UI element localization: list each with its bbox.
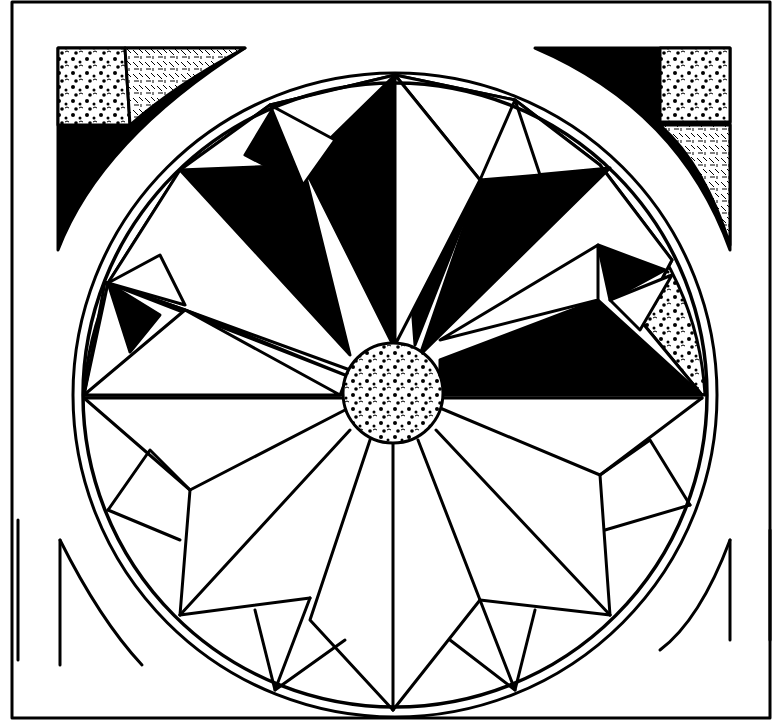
- corner-tr-speckle: [660, 48, 730, 122]
- rose-window-artwork: [0, 0, 773, 722]
- center-hub: [343, 343, 443, 443]
- corner-tl-speckle: [58, 48, 130, 125]
